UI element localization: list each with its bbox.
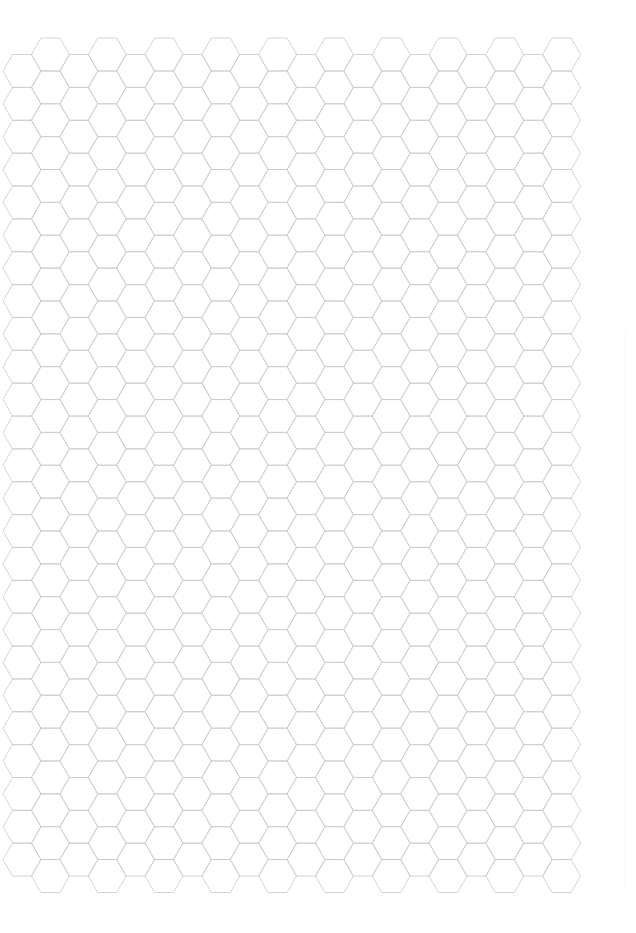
hex-cell	[429, 104, 467, 137]
hex-cell	[287, 580, 325, 613]
hex-cell	[117, 745, 155, 778]
hex-cell	[514, 449, 552, 482]
hex-cell	[457, 120, 495, 153]
hex-cell	[202, 662, 240, 695]
hex-cell	[372, 662, 410, 695]
hex-cell	[429, 202, 467, 235]
hex-cell	[543, 498, 581, 531]
scan-edge-line	[625, 330, 626, 890]
hex-cell	[514, 646, 552, 679]
hex-cell	[117, 350, 155, 383]
hex-cell	[259, 137, 297, 170]
hex-cell	[457, 843, 495, 876]
hex-cell	[457, 219, 495, 252]
hex-cell	[60, 317, 98, 350]
hex-cell	[202, 268, 240, 301]
hex-cell	[3, 547, 41, 580]
hex-cell	[486, 564, 524, 597]
hex-cell	[287, 515, 325, 548]
hex-cell	[372, 38, 410, 71]
hex-cell	[3, 416, 41, 449]
hex-cell	[60, 547, 98, 580]
hex-cell	[429, 71, 467, 104]
hex-cell	[173, 843, 211, 876]
hex-cell	[230, 646, 268, 679]
hex-cell	[145, 400, 183, 433]
hex-cell	[429, 695, 467, 728]
hex-cell	[60, 186, 98, 219]
hex-cell	[202, 498, 240, 531]
hex-cell	[401, 55, 439, 88]
hex-cell	[259, 334, 297, 367]
hex-cell	[173, 219, 211, 252]
hex-cell	[372, 235, 410, 268]
hex-cell	[486, 268, 524, 301]
hex-cell	[173, 153, 211, 186]
hex-cell	[3, 120, 41, 153]
hex-cell	[372, 465, 410, 498]
hex-cell	[145, 630, 183, 663]
hex-cell	[372, 202, 410, 235]
hex-cell	[315, 662, 353, 695]
hex-cell	[401, 745, 439, 778]
hex-cell	[173, 613, 211, 646]
hex-cell	[344, 515, 382, 548]
hex-cell	[145, 202, 183, 235]
hex-cell	[372, 597, 410, 630]
hex-cell	[344, 120, 382, 153]
hex-cell	[372, 71, 410, 104]
hex-cell	[315, 301, 353, 334]
hex-cell	[88, 367, 126, 400]
hex-cell	[315, 827, 353, 860]
hex-cell	[287, 613, 325, 646]
hex-cell	[88, 104, 126, 137]
hex-cell	[344, 482, 382, 515]
hex-cell	[514, 350, 552, 383]
hex-cell	[3, 186, 41, 219]
hex-cell	[543, 268, 581, 301]
hex-cell	[514, 843, 552, 876]
hex-cell	[401, 679, 439, 712]
hex-cell	[60, 778, 98, 811]
hex-cell	[31, 860, 69, 893]
hex-cell	[372, 564, 410, 597]
hex-cell	[31, 827, 69, 860]
hex-cell	[202, 827, 240, 860]
hex-cell	[3, 745, 41, 778]
hex-cell	[259, 268, 297, 301]
hex-cell	[429, 432, 467, 465]
hex-cell	[230, 87, 268, 120]
hex-cell	[514, 515, 552, 548]
hex-cell	[543, 301, 581, 334]
hex-cell	[31, 794, 69, 827]
hex-cell	[457, 810, 495, 843]
hex-cell	[259, 104, 297, 137]
hex-cell	[514, 87, 552, 120]
hex-cell	[259, 630, 297, 663]
hex-cell	[514, 285, 552, 318]
hex-cell	[287, 317, 325, 350]
hex-cell	[486, 400, 524, 433]
hex-cell	[60, 153, 98, 186]
hex-cell	[429, 564, 467, 597]
hex-cell	[202, 104, 240, 137]
hex-cell	[88, 597, 126, 630]
hex-cell	[202, 202, 240, 235]
hex-cell	[3, 810, 41, 843]
hex-cell	[117, 515, 155, 548]
hex-cell	[486, 695, 524, 728]
graph-paper-page	[0, 0, 636, 933]
hex-cell	[457, 55, 495, 88]
hex-cell	[117, 416, 155, 449]
hex-cell	[3, 449, 41, 482]
hex-cell	[230, 285, 268, 318]
hex-cell	[31, 630, 69, 663]
hex-cell	[88, 794, 126, 827]
hex-cell	[543, 860, 581, 893]
hex-cell	[287, 55, 325, 88]
hex-cell	[401, 580, 439, 613]
hex-cell	[31, 104, 69, 137]
hex-cell	[31, 235, 69, 268]
hex-cell	[173, 252, 211, 285]
hex-cell	[31, 531, 69, 564]
